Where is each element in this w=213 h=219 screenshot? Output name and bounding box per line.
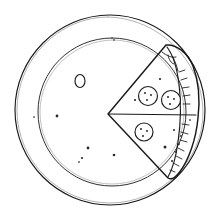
pepperoni-1 [139, 87, 158, 106]
pizza-illustration [0, 0, 213, 219]
drawing-canvas [0, 0, 213, 219]
pepperoni-2 [162, 91, 181, 110]
olive-ring [75, 75, 85, 88]
pepperoni-3 [135, 123, 153, 141]
